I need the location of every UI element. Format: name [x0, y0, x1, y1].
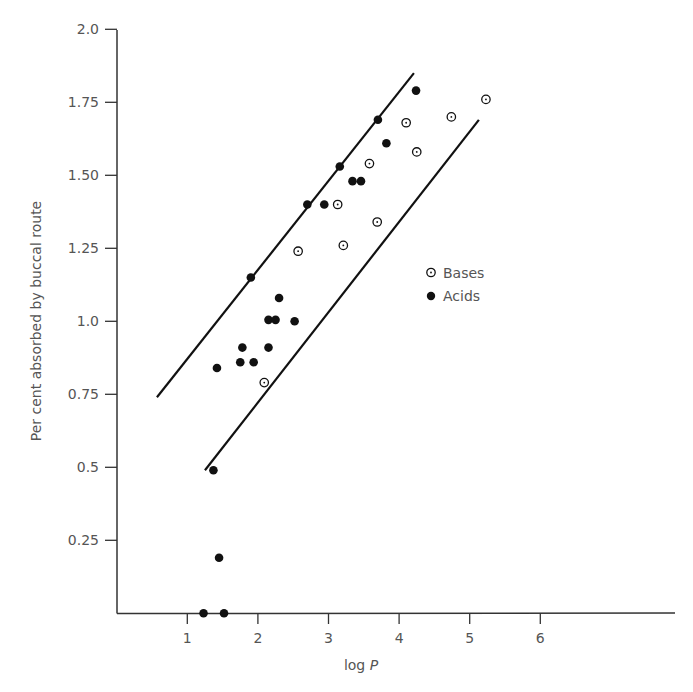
y-axis-title: Per cent absorbed by buccal route [28, 201, 44, 442]
open-circle-center-icon [430, 272, 432, 274]
acid-data-point [238, 343, 247, 352]
filled-circle-icon [427, 292, 435, 300]
y-axis-ticks: 0.250.50.751.01.251.501.752.0 [68, 21, 117, 548]
y-tick-label: 1.25 [68, 240, 99, 256]
y-tick-label: 1.0 [77, 313, 99, 329]
acid-data-point [290, 317, 299, 326]
legend-label-acids: Acids [443, 288, 480, 304]
acid-data-point [236, 358, 245, 367]
x-axis-title-main: log [344, 657, 370, 673]
y-tick-label: 0.25 [68, 532, 99, 548]
y-tick-label: 2.0 [77, 21, 99, 37]
acid-data-point [357, 177, 366, 186]
base-data-point-center [416, 151, 418, 153]
acid-data-point [412, 86, 421, 95]
lower-boundary-line [205, 120, 479, 470]
acid-data-point [264, 343, 273, 352]
x-tick-label: 1 [183, 630, 192, 646]
acid-data-point [335, 162, 344, 171]
acid-data-point [247, 273, 256, 282]
base-data-point-center [376, 221, 378, 223]
acid-data-point [271, 316, 280, 325]
base-data-point-center [342, 244, 344, 246]
base-data-point-center [485, 98, 487, 100]
base-data-point-center [263, 382, 265, 384]
y-tick-label: 1.50 [68, 167, 99, 183]
acid-data-point [320, 200, 329, 209]
base-data-point-center [405, 122, 407, 124]
x-tick-label: 6 [536, 630, 545, 646]
scatter-chart: 0.250.50.751.01.251.501.752.0 123456 Per… [0, 0, 693, 692]
acid-data-point [199, 609, 208, 618]
x-tick-label: 4 [395, 630, 404, 646]
base-data-point-center [297, 250, 299, 252]
acid-data-point [249, 358, 258, 367]
y-tick-label: 0.5 [77, 459, 99, 475]
legend: Bases Acids [427, 265, 485, 305]
legend-item-acids: Acids [427, 288, 480, 304]
y-tick-label: 1.75 [68, 94, 99, 110]
base-data-point-center [450, 116, 452, 118]
legend-item-bases: Bases [427, 265, 485, 281]
acid-data-point [303, 200, 312, 209]
x-tick-label: 5 [465, 630, 474, 646]
x-axis-ticks: 123456 [183, 613, 545, 646]
acid-data-point [213, 364, 222, 373]
x-tick-label: 3 [324, 630, 333, 646]
acid-data-point [275, 294, 284, 303]
legend-label-bases: Bases [443, 265, 484, 281]
x-tick-label: 2 [253, 630, 262, 646]
axes [117, 30, 675, 614]
y-tick-label: 0.75 [68, 386, 99, 402]
base-data-point-center [369, 163, 371, 165]
acid-data-point [382, 139, 391, 148]
data-points [199, 86, 490, 617]
acid-data-point [220, 609, 229, 618]
acid-data-point [348, 177, 357, 186]
acid-data-point [209, 466, 218, 475]
x-axis-title: log P [344, 657, 379, 673]
acid-data-point [215, 554, 224, 563]
acid-data-point [374, 116, 383, 125]
x-axis-title-italic: P [370, 657, 379, 673]
base-data-point-center [337, 204, 339, 206]
